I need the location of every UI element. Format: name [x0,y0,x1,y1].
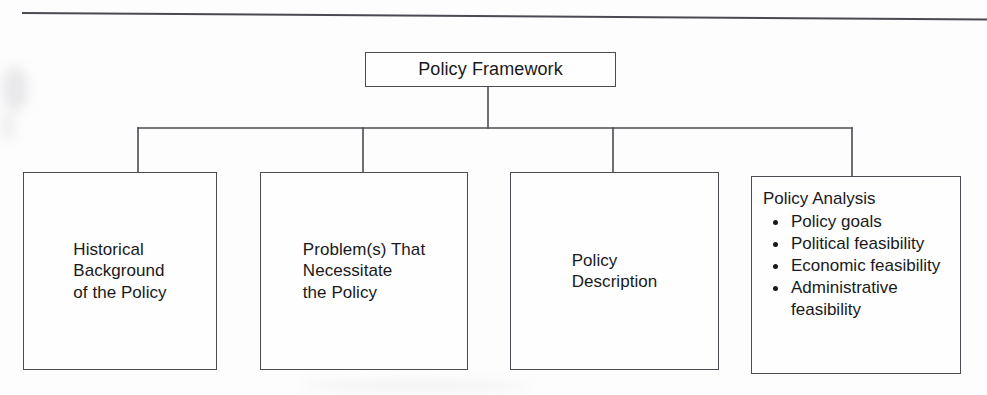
node-problems: Problem(s) That Necessitate the Policy [260,172,468,370]
policy-analysis-bullet-label: Economic feasibility [791,256,940,275]
policy-analysis-bullet-label: Political feasibility [791,234,924,253]
node-policy-analysis-heading: Policy Analysis [763,188,960,210]
policy-analysis-bullet-item: Policy goals [763,211,960,233]
node-policy-framework-label: Policy Framework [418,59,563,80]
node-policy-analysis: Policy Analysis Policy goalsPolitical fe… [751,176,961,374]
node-policy-description: Policy Description [510,172,719,370]
policy-framework-diagram: Policy Framework Historical Background o… [0,0,987,395]
scan-artifact-smudge [0,112,16,142]
policy-analysis-bullet-label: Policy goals [791,212,882,231]
node-policy-framework: Policy Framework [365,52,616,87]
policy-analysis-bullet-item: Political feasibility [763,233,960,255]
policy-analysis-bullet-item: Economic feasibility [763,255,960,277]
bullet-dot-icon [773,242,778,247]
node-problems-label: Problem(s) That Necessitate the Policy [303,239,425,304]
node-historical-background-label: Historical Background of the Policy [73,239,166,304]
node-policy-description-label: Policy Description [572,250,658,293]
policy-analysis-bullet-item: Administrative feasibility [763,277,960,321]
bullet-dot-icon [773,264,778,269]
policy-analysis-bullet-list: Policy goalsPolitical feasibilityEconomi… [763,211,960,321]
node-historical-background: Historical Background of the Policy [23,172,217,370]
scan-artifact-smudge [2,66,28,112]
top-horizontal-rule [22,12,987,20]
policy-analysis-bullet-label: Administrative feasibility [791,278,898,319]
scan-artifact-smudge [300,380,530,392]
bullet-dot-icon [773,286,778,291]
bullet-dot-icon [773,220,778,225]
